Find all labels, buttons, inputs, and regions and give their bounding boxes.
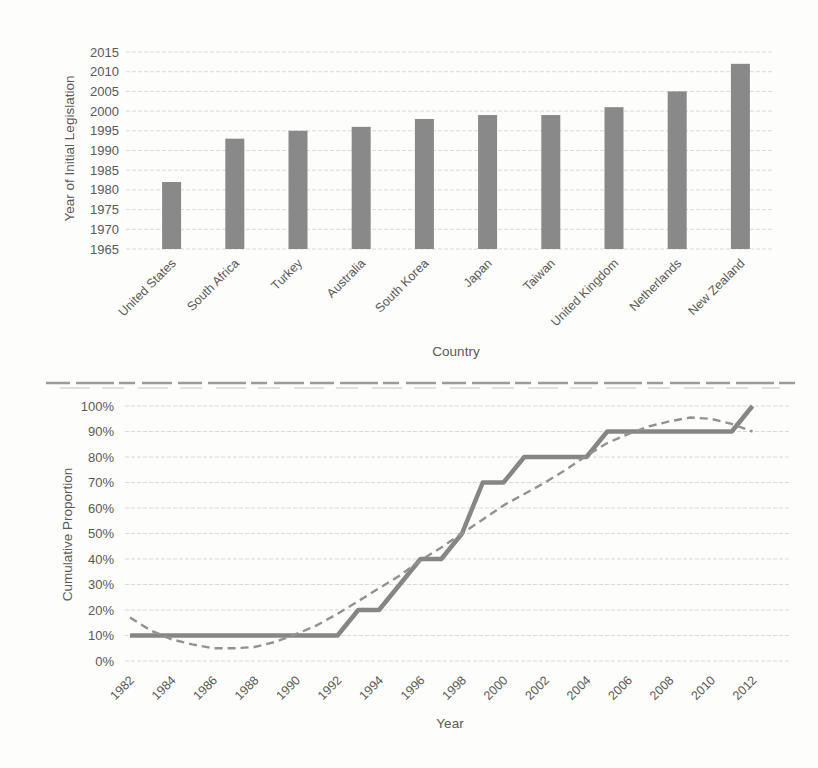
- y-tick-label: 60%: [88, 501, 114, 516]
- y-tick-label: 30%: [88, 577, 114, 592]
- y-tick-label: 20%: [88, 603, 114, 618]
- dashed-trend-line: [130, 418, 753, 649]
- x-tick-label: 1982: [108, 673, 138, 703]
- line-chart-x-axis-title: Year: [410, 716, 490, 731]
- y-tick-label: 80%: [88, 450, 114, 465]
- y-tick-label: 2005: [90, 84, 119, 99]
- x-tick-label: 1990: [274, 673, 304, 703]
- bar: [162, 182, 181, 249]
- y-tick-label: 40%: [88, 552, 114, 567]
- y-tick-label: 0%: [95, 654, 114, 669]
- bar: [289, 131, 308, 249]
- x-category-label: Taiwan: [520, 256, 557, 293]
- x-category-label: South Africa: [184, 256, 242, 314]
- y-tick-label: 1980: [90, 182, 119, 197]
- x-tick-label: 1994: [357, 673, 387, 703]
- x-tick-label: 1998: [440, 673, 470, 703]
- x-tick-label: 1988: [232, 673, 262, 703]
- x-category-label: United Kingdom: [548, 256, 621, 329]
- x-tick-label: 2008: [647, 673, 677, 703]
- x-tick-label: 2010: [689, 673, 719, 703]
- y-tick-label: 90%: [88, 424, 114, 439]
- bar-chart-y-axis-title: Year of Initial Legislation: [62, 39, 77, 259]
- x-category-label: South Korea: [372, 256, 431, 315]
- x-category-label: New Zealand: [686, 256, 748, 318]
- y-tick-label: 1985: [90, 163, 119, 178]
- solid-series-line: [130, 406, 753, 636]
- bar-chart-x-axis-title: Country: [406, 344, 506, 359]
- x-tick-label: 2004: [564, 673, 594, 703]
- y-tick-label: 2015: [90, 45, 119, 60]
- x-tick-label: 1992: [315, 673, 345, 703]
- y-tick-label: 1965: [90, 242, 119, 257]
- x-tick-label: 2002: [523, 673, 553, 703]
- figure-divider: [46, 383, 795, 388]
- bar: [225, 139, 244, 249]
- x-category-label: Netherlands: [627, 256, 685, 314]
- y-tick-label: 1990: [90, 143, 119, 158]
- bar: [352, 127, 371, 249]
- bar: [668, 91, 687, 249]
- scanned-figure-page: 1965197019751980198519901995200020052010…: [0, 0, 818, 768]
- x-tick-label: 2012: [730, 673, 760, 703]
- y-tick-label: 1975: [90, 202, 119, 217]
- y-tick-label: 50%: [88, 526, 114, 541]
- bar-chart: 1965197019751980198519901995200020052010…: [90, 45, 773, 330]
- bar: [541, 115, 560, 249]
- bar: [415, 119, 434, 249]
- line-chart-y-axis-title: Cumulative Proportion: [60, 415, 75, 655]
- x-tick-label: 2000: [481, 673, 511, 703]
- y-tick-label: 10%: [88, 628, 114, 643]
- cumulative-line-chart: 0%10%20%30%40%50%60%70%80%90%100%1982198…: [81, 399, 789, 703]
- y-tick-label: 2010: [90, 64, 119, 79]
- y-tick-label: 2000: [90, 104, 119, 119]
- y-tick-label: 100%: [81, 399, 115, 414]
- x-category-label: United States: [116, 256, 179, 319]
- bar: [731, 64, 750, 249]
- y-tick-label: 1995: [90, 123, 119, 138]
- x-category-label: Australia: [324, 256, 368, 300]
- x-tick-label: 2006: [606, 673, 636, 703]
- x-category-label: Turkey: [269, 256, 306, 293]
- x-tick-label: 1996: [398, 673, 428, 703]
- bar: [478, 115, 497, 249]
- bar: [605, 107, 624, 249]
- y-tick-label: 1970: [90, 222, 119, 237]
- charts-canvas: 1965197019751980198519901995200020052010…: [0, 0, 818, 768]
- x-tick-label: 1984: [149, 673, 179, 703]
- x-tick-label: 1986: [191, 673, 221, 703]
- x-category-label: Japan: [461, 256, 495, 290]
- y-tick-label: 70%: [88, 475, 114, 490]
